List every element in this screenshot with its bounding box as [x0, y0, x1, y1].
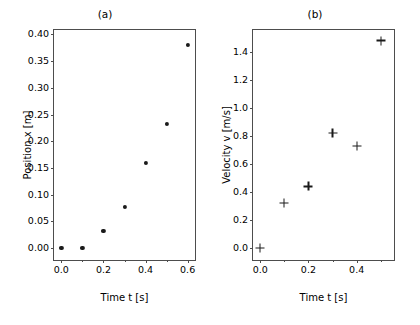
panel-a-y-tick-label: 0.30: [28, 83, 49, 93]
panel-a-x-minor-tick: [82, 260, 83, 262]
panel-b-y-tick-label: 1.0: [233, 103, 248, 113]
panel-a-y-tick: [51, 141, 54, 142]
panel-b-y-tick: [250, 108, 253, 109]
panel-a-y-tick: [51, 248, 54, 249]
panel-b-data-point: [280, 199, 289, 208]
panel-b-y-tick-label: 0.2: [233, 215, 248, 225]
panel-b-data-point: [256, 244, 265, 253]
panel-b-y-tick-label: 0.8: [233, 131, 248, 141]
panel-b-x-tick: [260, 260, 261, 263]
panel-b-x-minor-tick: [381, 260, 382, 262]
panel-a-data-point: [143, 161, 147, 165]
panel-a-y-tick: [51, 195, 54, 196]
panel-a-y-tick-label: 0.25: [28, 110, 49, 120]
panel-a-x-tick-label: 0.0: [54, 265, 69, 275]
panel-b-title: (b): [210, 7, 420, 21]
panel-a-data-point: [59, 246, 63, 250]
panel-b-axes: 0.00.20.40.60.81.01.21.40.00.20.4: [252, 29, 395, 261]
panel-b-plot-area: 0.00.20.40.60.81.01.21.40.00.20.4: [253, 30, 394, 260]
panel-b-x-minor-tick: [333, 260, 334, 262]
panel-a-data-point: [122, 205, 126, 209]
panel-b-data-point: [352, 141, 361, 150]
panel-b-x-axis-label: Time t [s]: [252, 292, 395, 304]
panel-b-y-tick: [250, 192, 253, 193]
panel-b-y-tick: [250, 164, 253, 165]
figure-canvas: (a) Position x [m] Time t [s] 0.000.050.…: [0, 0, 420, 325]
panel-a-x-tick: [103, 260, 104, 263]
panel-a-y-tick-label: 0.10: [28, 190, 49, 200]
panel-b-x-tick: [357, 260, 358, 263]
panel-a-y-tick-label: 0.15: [28, 163, 49, 173]
panel-b-y-tick-label: 0.4: [233, 187, 248, 197]
panel-a-y-tick: [51, 115, 54, 116]
panel-b-y-tick-label: 0.6: [233, 159, 248, 169]
panel-a-x-tick-label: 0.4: [138, 265, 153, 275]
panel-a-y-tick: [51, 168, 54, 169]
panel-a-y-tick: [51, 34, 54, 35]
panel-b-x-tick-label: 0.2: [301, 265, 316, 275]
panel-a-y-tick-label: 0.05: [28, 216, 49, 226]
panel-a-y-tick: [51, 221, 54, 222]
panel-a-data-point: [164, 122, 168, 126]
panel-a-x-tick: [61, 260, 62, 263]
panel-b-y-tick-label: 0.0: [233, 243, 248, 253]
panel-a-x-axis-label: Time t [s]: [53, 292, 196, 304]
panel-b-y-tick: [250, 136, 253, 137]
panel-b-data-point: [304, 182, 313, 191]
panel-a-axes: 0.000.050.100.150.200.250.300.350.400.00…: [53, 29, 196, 261]
panel-b-y-tick-label: 1.2: [233, 75, 248, 85]
panel-a-x-tick-label: 0.6: [180, 265, 195, 275]
panel-a-data-point: [80, 246, 84, 250]
panel-a-title: (a): [0, 7, 210, 21]
panel-a-y-tick-label: 0.35: [28, 56, 49, 66]
panel-a-y-tick: [51, 61, 54, 62]
panel-a-y-tick-label: 0.20: [28, 136, 49, 146]
panel-b-data-point: [376, 36, 385, 45]
panel-a-plot-area: 0.000.050.100.150.200.250.300.350.400.00…: [54, 30, 195, 260]
panel-a-x-tick: [146, 260, 147, 263]
panel-a-data-point: [186, 43, 190, 47]
panel-b-x-minor-tick: [284, 260, 285, 262]
panel-a-y-tick-label: 0.40: [28, 29, 49, 39]
panel-b-x-tick-label: 0.4: [349, 265, 364, 275]
panel-b-y-tick: [250, 52, 253, 53]
panel-a-y-tick: [51, 88, 54, 89]
panel-a-y-tick-label: 0.00: [28, 243, 49, 253]
panel-a-x-tick-label: 0.2: [96, 265, 111, 275]
panel-b-y-tick: [250, 248, 253, 249]
panel-a-x-minor-tick: [125, 260, 126, 262]
panel-a-x-tick: [188, 260, 189, 263]
panel-b-data-point: [328, 129, 337, 138]
panel-b-y-tick: [250, 80, 253, 81]
panel-a-data-point: [101, 228, 105, 232]
panel-b-y-tick: [250, 220, 253, 221]
panel-b-x-tick: [308, 260, 309, 263]
panel-b-y-tick-label: 1.4: [233, 47, 248, 57]
panel-b-x-tick-label: 0.0: [253, 265, 268, 275]
panel-b-y-axis-label: Velocity v [m/s]: [221, 75, 233, 215]
panel-a-x-minor-tick: [167, 260, 168, 262]
